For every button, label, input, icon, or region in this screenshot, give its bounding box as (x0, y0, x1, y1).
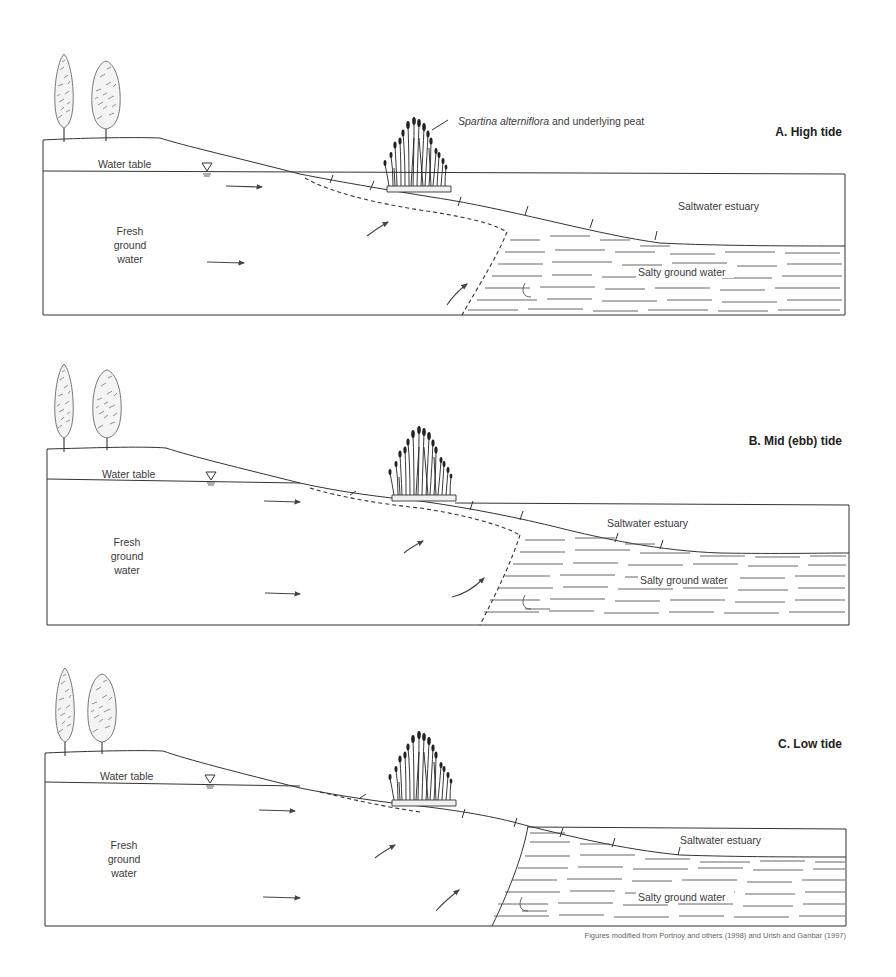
flow-arrow-icon (447, 284, 467, 305)
spartina-marsh-icon (389, 731, 457, 806)
flow-arrow-icon (259, 810, 295, 811)
water-table-triangle-icon (205, 775, 215, 788)
water-table-label: Water table (102, 468, 155, 480)
tree-icon (92, 61, 120, 141)
tree-icon (56, 668, 74, 756)
fresh-groundwater-label: Fresh (117, 225, 144, 237)
fresh-groundwater-label: ground (114, 239, 147, 251)
flow-arrow-icon (226, 186, 262, 187)
salty-groundwater-label: Salty ground water (638, 891, 726, 903)
panel-title: C. Low tide (778, 737, 842, 751)
flow-arrow-icon (375, 845, 395, 858)
water-table-label: Water table (98, 158, 151, 170)
fresh-groundwater-label: water (113, 564, 140, 576)
saltwater-estuary-label: Saltwater estuary (680, 834, 762, 846)
flow-arrow-icon (367, 222, 388, 236)
fresh-groundwater-label: water (116, 253, 143, 265)
fresh-groundwater-label: ground (108, 853, 141, 865)
fresh-groundwater-label: Fresh (111, 839, 138, 851)
panel-title: A. High tide (775, 125, 842, 139)
panel-c-low-tide: Water table Fresh ground water Saltwater… (45, 668, 846, 926)
flow-arrow-icon (265, 593, 300, 594)
saltwater-estuary-label: Saltwater estuary (678, 200, 760, 212)
panel-title: B. Mid (ebb) tide (749, 434, 843, 448)
flow-arrow-icon (436, 890, 459, 911)
water-table-triangle-icon (202, 163, 212, 176)
panel-b-mid-ebb-tide: Water table Fresh ground water Saltwater… (47, 364, 849, 625)
flow-arrow-icon (264, 501, 300, 502)
fresh-groundwater-label: water (110, 867, 137, 879)
salty-groundwater-label: Salty ground water (638, 266, 726, 278)
figure-source-caption: Figures modified from Portnoy and others… (585, 931, 847, 940)
spartina-annotation: Spartina alterniflora and underlying pea… (458, 115, 644, 127)
water-table-label: Water table (100, 770, 153, 782)
tree-icon (55, 364, 73, 452)
panel-a-high-tide: Water table Fresh ground water Saltwater… (43, 54, 845, 315)
tidal-groundwater-diagram: Water table Fresh ground water Saltwater… (0, 0, 896, 977)
flow-arrow-icon (263, 897, 300, 898)
salty-groundwater-label: Salty ground water (640, 574, 728, 586)
saltwater-estuary-label: Saltwater estuary (607, 517, 689, 529)
fresh-groundwater-label: Fresh (114, 536, 141, 548)
tree-icon (93, 370, 121, 450)
flow-arrow-icon (207, 262, 244, 263)
salty-water-hatching (494, 833, 845, 917)
tree-icon (55, 54, 73, 142)
water-table-triangle-icon (206, 472, 216, 485)
tree-icon (88, 674, 116, 754)
flow-arrow-icon (452, 578, 484, 597)
spartina-marsh-icon (389, 426, 457, 501)
fresh-groundwater-label: ground (111, 550, 144, 562)
flow-arrow-icon (404, 541, 423, 553)
spartina-marsh-icon (384, 117, 452, 192)
